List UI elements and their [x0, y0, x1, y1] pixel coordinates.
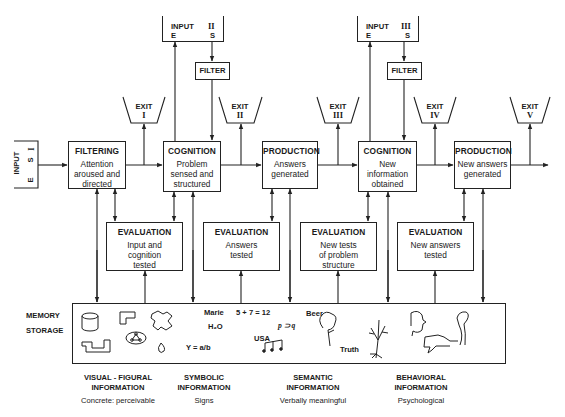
input-iii-e-label: E [366, 31, 371, 40]
memory-item-truth: Truth [340, 345, 359, 354]
stage-production-2: PRODUCTION New answersgenerated [454, 141, 511, 189]
input-iii-s-label: S [405, 31, 410, 40]
exit-v: EXITV [515, 102, 545, 120]
stage-title: COGNITION [164, 146, 220, 156]
input-ii-s-label: S [210, 31, 215, 40]
input-i-s-label: S [26, 155, 36, 165]
category-semantic: SEMANTICINFORMATION Verbally meaningful [268, 373, 358, 406]
memory-item-marie: Marie [204, 308, 224, 317]
memory-storage-box [72, 303, 506, 364]
stage-cognition-1: COGNITION Problemsensed andstructured [163, 141, 221, 192]
filter-ii-box: FILTER [195, 62, 230, 80]
stage-title: PRODUCTION [455, 146, 510, 156]
input-i-label: INPUT [12, 149, 22, 177]
input-iii-numeral: III [401, 21, 411, 31]
category-symbolic: SYMBOLICINFORMATION Signs [174, 373, 234, 406]
input-ii-box: INPUT II E S [162, 16, 224, 42]
exit-iii: EXITIII [323, 102, 353, 120]
input-ii-e-label: E [171, 31, 176, 40]
exit-ii: EXITII [225, 102, 255, 120]
exit-iv: EXITIV [420, 102, 450, 120]
input-iii-label: INPUT [366, 22, 389, 31]
stage-title: PRODUCTION [263, 146, 317, 156]
filter-iii-box: FILTER [387, 62, 422, 80]
evaluation-3: EVALUATION New testsof problemstructure [300, 222, 377, 271]
category-behavioral: BEHAVIORALINFORMATION Psychological [386, 373, 456, 406]
stage-title: FILTERING [69, 146, 125, 156]
memory-item-usa: USA [254, 334, 270, 343]
evaluation-2: EVALUATION Answerstested [203, 222, 280, 271]
memory-item-math: 5 + 7 = 12 [236, 308, 270, 317]
storage-label: STORAGE [26, 326, 71, 336]
memory-label: MEMORY [26, 311, 71, 321]
category-visual-figural: VISUAL - FIGURALINFORMATION Concrete: pe… [68, 373, 168, 406]
memory-item-implication: p ⊃ q [278, 321, 295, 330]
evaluation-4: EVALUATION New answerstested [397, 222, 474, 271]
stage-production-1: PRODUCTION Answersgenerated [262, 141, 318, 189]
stage-title: COGNITION [359, 146, 416, 156]
exit-i: EXITI [129, 102, 159, 120]
memory-item-beer: Beer [306, 309, 323, 318]
memory-item-h2o: H₂O [208, 322, 223, 331]
stage-cognition-2: COGNITION Newinformationobtained [358, 141, 417, 192]
input-i-e-label: E [26, 175, 36, 185]
evaluation-1: EVALUATION Input andcognitiontested [106, 222, 183, 271]
input-ii-numeral: II [208, 21, 215, 31]
input-i-numeral: I [26, 144, 36, 154]
memory-item-y-equals: Y = a/b [186, 343, 211, 352]
input-iii-box: INPUT III E S [357, 16, 419, 42]
stage-filtering: FILTERING Attentionaroused anddirected [68, 141, 126, 189]
input-ii-label: INPUT [171, 22, 194, 31]
